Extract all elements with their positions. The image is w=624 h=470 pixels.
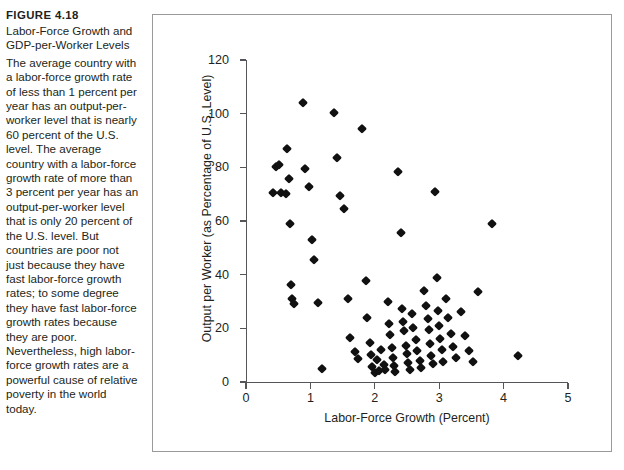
data-point [286, 280, 296, 290]
data-point [407, 309, 417, 319]
data-point [460, 331, 470, 341]
data-point [431, 273, 441, 283]
x-axis-title: Labor-Force Growth (Percent) [246, 411, 568, 425]
data-point [513, 351, 523, 361]
data-point [456, 307, 466, 317]
data-point [440, 294, 450, 304]
x-tick-label: 2 [363, 391, 387, 405]
x-tick-label: 0 [234, 391, 258, 405]
data-point [306, 235, 316, 245]
data-point [285, 219, 295, 229]
figure-4-18: FIGURE 4.18 Labor-Force Growth and GDP-p… [0, 0, 624, 470]
data-point [395, 228, 405, 238]
data-point [309, 254, 319, 264]
data-point [393, 167, 403, 177]
data-point [313, 298, 323, 308]
data-point [283, 174, 293, 184]
data-point [353, 354, 363, 364]
data-point [467, 357, 477, 367]
figure-title: Labor-Force Growth and GDP-per-Worker Le… [6, 24, 140, 53]
y-axis-title: Output per Worker (as Percentage of U.S.… [200, 59, 215, 359]
y-tick [240, 274, 246, 275]
data-point [382, 296, 392, 306]
data-point [384, 319, 394, 329]
data-point [385, 330, 395, 340]
figure-caption: FIGURE 4.18 Labor-Force Growth and GDP-p… [6, 8, 140, 466]
data-point [390, 367, 400, 377]
y-tick [240, 113, 246, 114]
data-point [362, 312, 372, 322]
x-tick-label: 5 [556, 391, 580, 405]
data-point [487, 218, 497, 228]
data-point [448, 341, 458, 351]
data-point [364, 338, 374, 348]
x-tick-label: 4 [492, 391, 516, 405]
data-point [430, 187, 440, 197]
data-point [411, 334, 421, 344]
figure-caption-body: The average country with a labor-force g… [6, 56, 140, 416]
data-point [446, 328, 456, 338]
y-tick [240, 328, 246, 329]
data-point [332, 153, 342, 163]
x-tick-label: 3 [427, 391, 451, 405]
data-point [328, 108, 338, 118]
scatter-plot: 020406080100120 012345 Output per Worker… [153, 15, 613, 453]
data-point [416, 363, 426, 373]
y-tick-label: 0 [189, 376, 229, 388]
data-point [408, 323, 418, 333]
figure-number: FIGURE 4.18 [6, 8, 140, 22]
data-point [435, 333, 445, 343]
x-tick [310, 383, 311, 389]
data-point [317, 363, 327, 373]
data-point [433, 306, 443, 316]
data-point [438, 356, 448, 366]
data-point [376, 344, 386, 354]
chart-panel: 020406080100120 012345 Output per Worker… [152, 14, 612, 452]
data-point [386, 343, 396, 353]
data-point [357, 124, 367, 134]
data-point [419, 286, 429, 296]
data-point [335, 191, 345, 201]
data-point [434, 320, 444, 330]
y-tick [240, 167, 246, 168]
x-tick [439, 383, 440, 389]
x-tick [245, 383, 246, 389]
data-point [473, 287, 483, 297]
data-point [304, 181, 314, 191]
data-point [425, 339, 435, 349]
y-tick [240, 220, 246, 221]
data-point [397, 304, 407, 314]
y-tick [240, 59, 246, 60]
x-tick [374, 383, 375, 389]
x-tick [567, 383, 568, 389]
data-point [464, 346, 474, 356]
x-axis-line [246, 382, 568, 383]
data-point [339, 204, 349, 214]
data-point [281, 144, 291, 154]
y-axis-line [246, 60, 247, 383]
data-point [422, 314, 432, 324]
x-tick [503, 383, 504, 389]
data-point [428, 359, 438, 369]
data-point [437, 345, 447, 355]
data-point [451, 353, 461, 363]
data-point [297, 98, 307, 108]
data-point [361, 275, 371, 285]
data-point [343, 294, 353, 304]
x-tick-label: 1 [298, 391, 322, 405]
data-point [300, 164, 310, 174]
data-point [421, 301, 431, 311]
data-point [345, 332, 355, 342]
data-point [443, 313, 453, 323]
data-point [424, 325, 434, 335]
data-point [412, 346, 422, 356]
